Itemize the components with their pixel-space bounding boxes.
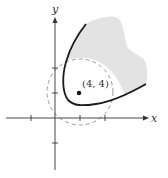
- point-marker: [77, 91, 81, 95]
- y-axis-arrow-icon: [53, 17, 58, 23]
- y-axis-label: y: [51, 3, 59, 16]
- point-label: (4, 4): [82, 78, 109, 89]
- graph-figure: x y (4, 4): [0, 0, 168, 178]
- x-axis-label: x: [151, 112, 158, 125]
- x-axis-arrow-icon: [143, 116, 149, 121]
